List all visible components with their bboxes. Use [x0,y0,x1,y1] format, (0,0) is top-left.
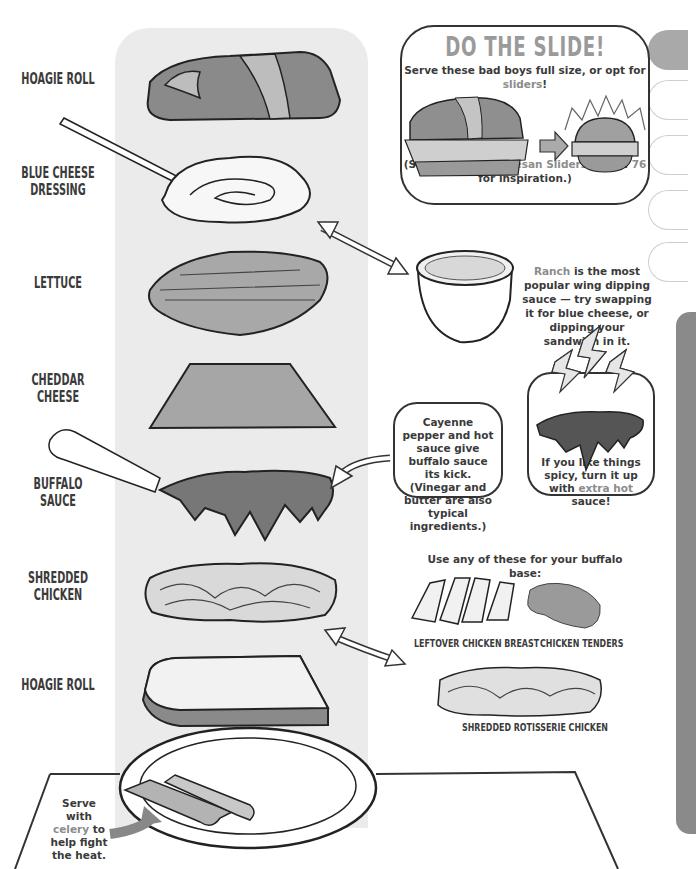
base-options-heading: Use any of these for your buffalo base: [410,552,640,580]
caption-shredded-rotisserie-chicken: SHREDDED ROTISSERIE CHICKEN [462,721,608,734]
caption-leftover-chicken-breast: LEFTOVER CHICKEN BREAST [414,637,539,650]
celery-note: Serve with celery to help fight the heat… [48,797,110,862]
caption-chicken-tenders: CHICKEN TENDERS [540,637,623,650]
